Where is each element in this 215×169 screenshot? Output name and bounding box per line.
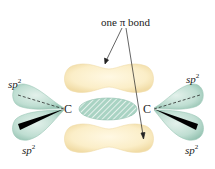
sp2-label-base: sp — [8, 78, 18, 90]
sp2-label-superscript: 2 — [18, 77, 22, 85]
arrow-to-top-lobe — [106, 28, 122, 61]
sp2-label-right-top: sp2 — [186, 74, 199, 85]
sp2-label-base: sp — [185, 144, 195, 156]
sp2-label-base: sp — [186, 73, 196, 85]
sp2-label-superscript: 2 — [195, 143, 199, 151]
pi-lobe-top — [65, 64, 154, 93]
sigma-bond — [79, 98, 137, 120]
sp2-label-left-top: sp2 — [8, 79, 21, 90]
right-carbon-label: C — [143, 103, 151, 115]
left-sp2-orbitals — [13, 84, 64, 140]
sp2-label-superscript: 2 — [196, 72, 200, 80]
sp2-label-superscript: 2 — [32, 143, 36, 151]
right-sp2-lobe-upper — [154, 84, 203, 109]
left-carbon-label: C — [64, 103, 72, 115]
sp2-label-right-bottom: sp2 — [185, 145, 198, 156]
pi-bond-diagram: one π bond C C sp2 sp2 sp2 sp2 — [0, 0, 215, 169]
arrowhead-top-lobe — [105, 58, 109, 64]
pi-bond-label: one π bond — [101, 17, 150, 28]
right-sp2-orbitals — [154, 84, 203, 140]
sp2-label-left-bottom: sp2 — [22, 145, 35, 156]
sp2-label-base: sp — [22, 144, 32, 156]
pi-lobe-bottom — [65, 124, 154, 153]
